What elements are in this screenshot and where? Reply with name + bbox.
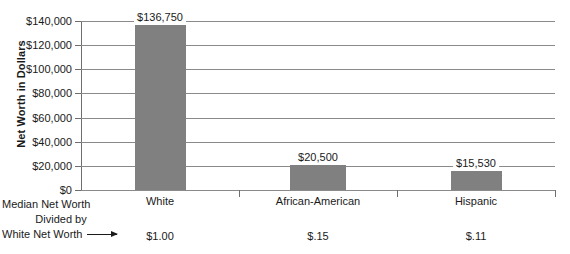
bar-value-label: $20,500: [295, 151, 341, 163]
y-axis-tick-label: $100,000: [26, 64, 72, 75]
ratio-value-label: $1.00: [146, 230, 174, 242]
x-axis-category-label: African-American: [276, 195, 360, 207]
bar: [290, 165, 346, 190]
bar: [451, 171, 502, 190]
ratio-caption-line-3: White Net Worth: [2, 227, 134, 242]
x-axis-tick: [555, 190, 556, 197]
y-axis-tick-label: $120,000: [26, 40, 72, 51]
y-axis-tick-label: $140,000: [26, 16, 72, 27]
ratio-caption-line-3-text: White Net Worth: [2, 227, 83, 242]
y-axis-tick-label: $0: [60, 185, 72, 196]
y-axis-tick: [75, 21, 81, 22]
arrow-right-icon: [87, 234, 117, 235]
ratio-caption-line-2: Divided by: [2, 212, 134, 227]
y-axis-tick: [75, 45, 81, 46]
bar: [135, 25, 186, 190]
gridline: [81, 190, 555, 191]
ratio-value-label: $.15: [307, 230, 328, 242]
x-axis-tick: [397, 190, 398, 197]
y-axis-tick-label: $60,000: [32, 112, 72, 123]
x-axis-tick: [239, 190, 240, 197]
x-axis-category-label: Hispanic: [455, 195, 497, 207]
ratio-caption: Median Net WorthDivided byWhite Net Wort…: [2, 197, 134, 242]
bar-value-label: $136,750: [134, 11, 186, 23]
y-axis-tick-label: $20,000: [32, 160, 72, 171]
y-axis-tick: [75, 142, 81, 143]
y-axis-tick: [75, 190, 81, 191]
y-axis-tick: [75, 166, 81, 167]
ratio-value-label: $.11: [466, 230, 487, 242]
ratio-caption-line-1: Median Net Worth: [2, 197, 134, 212]
bar-value-label: $15,530: [453, 157, 499, 169]
plot-area: $0$20,000$40,000$60,000$80,000$100,000$1…: [81, 21, 555, 190]
y-axis-tick-label: $40,000: [32, 136, 72, 147]
y-axis-tick: [75, 93, 81, 94]
y-axis-tick: [75, 69, 81, 70]
y-axis-tick-label: $80,000: [32, 88, 72, 99]
y-axis-tick: [75, 118, 81, 119]
bar-chart: Net Worth in Dollars $0$20,000$40,000$60…: [0, 0, 570, 254]
x-axis-category-label: White: [146, 195, 174, 207]
